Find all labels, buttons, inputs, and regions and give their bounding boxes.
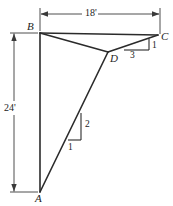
dim-arrow-left — [41, 11, 49, 17]
vertex-label-b: B — [27, 21, 34, 32]
truss-drawing-canvas — [0, 0, 173, 206]
truss-members — [40, 33, 158, 192]
slope-run-label-lower: 1 — [68, 143, 73, 153]
horizontal-dimension — [40, 8, 160, 34]
dim-arrow-right — [152, 11, 160, 17]
vertex-label-a: A — [35, 193, 42, 204]
slope-run-label-upper: 3 — [130, 51, 135, 61]
slope-rise-label-lower: 2 — [85, 120, 90, 130]
slope-rise-label-upper: 1 — [152, 41, 157, 51]
vertex-label-c: C — [161, 31, 168, 42]
dimension-label-horizontal: 18' — [84, 8, 98, 18]
member-bc — [40, 33, 158, 35]
vertex-label-d: D — [110, 53, 118, 64]
member-bd — [40, 33, 108, 52]
truss-diagram: B C D A 18' 24' 2 1 1 3 — [0, 0, 173, 206]
dim-arrow-top — [11, 34, 16, 42]
slope-triangle-lower — [68, 113, 81, 140]
dim-arrow-bottom — [11, 184, 16, 192]
slope-triangle-upper — [124, 39, 149, 51]
member-ad — [40, 52, 108, 192]
dimension-label-vertical: 24' — [3, 103, 17, 113]
